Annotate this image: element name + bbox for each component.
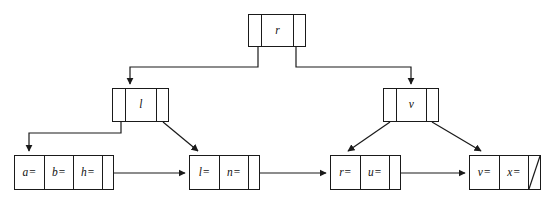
null-slash-icon bbox=[529, 156, 540, 189]
edge-v-to-leaf3 bbox=[348, 122, 390, 151]
internal-l-pointer-left[interactable] bbox=[113, 89, 125, 121]
edge-root-to-l bbox=[130, 47, 258, 84]
leaf-node-2[interactable]: l= n= bbox=[189, 155, 260, 190]
leaf-3-cell-r[interactable]: r= bbox=[331, 156, 360, 189]
leaf-1-next-pointer[interactable] bbox=[102, 156, 113, 189]
internal-l-key-label: l bbox=[139, 99, 142, 111]
internal-v-key-cell[interactable]: v bbox=[396, 89, 426, 121]
leaf-2-label-n: n= bbox=[227, 167, 241, 179]
root-pointer-right[interactable] bbox=[293, 15, 305, 46]
internal-v-pointer-left[interactable] bbox=[384, 89, 396, 121]
leaf-3-label-r: r= bbox=[339, 167, 352, 179]
edge-l-to-leaf2 bbox=[163, 122, 198, 151]
leaf-node-1[interactable]: a= b= h= bbox=[14, 155, 114, 190]
root-key-label: r bbox=[275, 25, 280, 37]
leaf-4-null-pointer[interactable] bbox=[528, 156, 540, 189]
leaf-3-label-u: u= bbox=[368, 167, 382, 179]
edge-root-to-v bbox=[296, 47, 411, 84]
leaf-3-next-pointer[interactable] bbox=[389, 156, 400, 189]
leaf-2-label-l: l= bbox=[199, 167, 210, 179]
leaf-4-label-v: v= bbox=[478, 167, 491, 179]
internal-node-l[interactable]: l bbox=[112, 88, 169, 122]
edge-v-to-leaf4 bbox=[432, 122, 481, 151]
leaf-4-cell-v[interactable]: v= bbox=[470, 156, 499, 189]
internal-l-pointer-right[interactable] bbox=[156, 89, 168, 121]
internal-l-key-cell[interactable]: l bbox=[125, 89, 156, 121]
leaf-1-label-b: b= bbox=[52, 167, 66, 179]
leaf-node-4[interactable]: v= x= bbox=[469, 155, 541, 190]
leaf-node-3[interactable]: r= u= bbox=[330, 155, 401, 190]
internal-v-pointer-right[interactable] bbox=[426, 89, 438, 121]
leaf-1-cell-b[interactable]: b= bbox=[44, 156, 73, 189]
root-key-cell[interactable]: r bbox=[261, 15, 293, 46]
edge-l-to-leaf1 bbox=[29, 122, 121, 151]
leaf-1-cell-a[interactable]: a= bbox=[15, 156, 44, 189]
leaf-1-label-h: h= bbox=[81, 167, 95, 179]
leaf-2-cell-n[interactable]: n= bbox=[219, 156, 248, 189]
tree-diagram: r l v a= b= h= l= bbox=[0, 0, 546, 208]
leaf-1-label-a: a= bbox=[23, 167, 37, 179]
leaf-2-next-pointer[interactable] bbox=[248, 156, 259, 189]
root-pointer-left[interactable] bbox=[249, 15, 261, 46]
leaf-1-cell-h[interactable]: h= bbox=[73, 156, 102, 189]
root-node[interactable]: r bbox=[248, 14, 306, 47]
internal-node-v[interactable]: v bbox=[383, 88, 439, 122]
leaf-4-label-x: x= bbox=[507, 167, 520, 179]
leaf-4-cell-x[interactable]: x= bbox=[499, 156, 528, 189]
leaf-2-cell-l[interactable]: l= bbox=[190, 156, 219, 189]
internal-v-key-label: v bbox=[409, 99, 414, 111]
leaf-3-cell-u[interactable]: u= bbox=[360, 156, 389, 189]
